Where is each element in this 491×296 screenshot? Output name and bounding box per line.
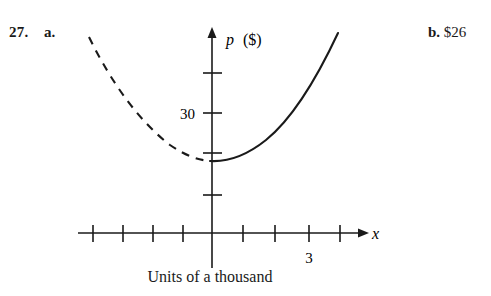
y-axis-arrowhead xyxy=(208,27,217,38)
curve-solid-branch xyxy=(210,33,338,161)
y-axis-variable: p xyxy=(225,31,234,49)
curve-dashed-branch xyxy=(89,37,210,161)
figure-root: 27. a. b. $26 30 3 p xyxy=(0,0,491,296)
x-tick-label-3: 3 xyxy=(305,250,313,266)
y-axis-label: p ($) xyxy=(225,31,262,49)
y-axis-unit: ($) xyxy=(243,31,262,49)
parabola-plot: 30 3 p ($) x xyxy=(0,0,491,296)
plot-caption: Units of a thousand xyxy=(0,268,420,286)
x-axis-label: x xyxy=(371,225,379,242)
y-tick-label-30: 30 xyxy=(180,106,195,122)
x-axis-arrowhead xyxy=(358,229,369,238)
